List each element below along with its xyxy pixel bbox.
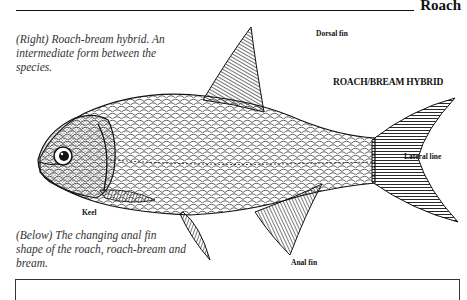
fish-head bbox=[38, 115, 115, 198]
bottom-frame bbox=[15, 279, 460, 300]
illustration-heading: ROACH/BREAM HYBRID bbox=[333, 77, 443, 87]
label-keel: Keel bbox=[82, 208, 97, 217]
label-dorsal-fin: Dorsal fin bbox=[316, 29, 348, 38]
label-anal-fin: Anal fin bbox=[291, 258, 317, 267]
label-lateral-line: Lateral line bbox=[404, 152, 441, 161]
pelvic-fin bbox=[180, 212, 210, 260]
